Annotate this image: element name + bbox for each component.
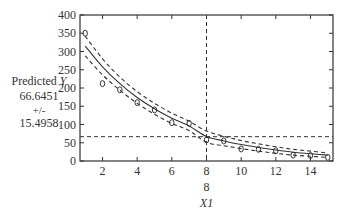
y-tick-label: 50 [64,136,76,150]
x-tick-label: 10 [235,164,247,178]
x-tick-label: 2 [100,164,106,178]
current-x-value[interactable]: 8 [204,180,210,194]
x-tick-label: 8 [204,164,210,178]
predicted-y-label: Predicted Y [0,74,78,89]
x-axis-label: X1 [199,196,213,209]
data-point-marker [100,81,104,87]
confidence-half-width: 15.4958 [0,116,78,131]
x-tick-label: 14 [304,164,316,178]
x-tick-label: 6 [169,164,175,178]
x-tick-label: 4 [134,164,140,178]
predicted-y-value: 66.6451 [0,89,78,104]
y-tick-label: 0 [70,154,76,168]
y-tick-label: 300 [58,45,76,59]
x-tick-label: 12 [270,164,282,178]
y-tick-label: 350 [58,26,76,40]
y-tick-label: 400 [58,8,76,22]
